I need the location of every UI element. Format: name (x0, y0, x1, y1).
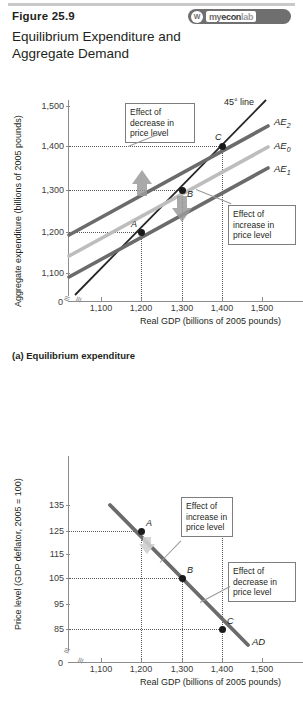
panel-a-point-B (179, 187, 186, 194)
ae1-sub: 1 (287, 169, 291, 176)
mel-my-text: my (209, 12, 221, 22)
mel-circle-icon: W (191, 11, 203, 23)
ae0-sub: 0 (287, 146, 291, 153)
mel-lab-text: lab (241, 12, 253, 22)
figure-title-line2: Aggregate Demand (12, 46, 129, 61)
panel-b-point-B-label: B (187, 565, 193, 575)
panel-b-callout-decrease: Effect of decrease in price level (228, 562, 296, 602)
panel-a-callout-increase: Effect of increase in price level (228, 205, 296, 245)
panel-a-point-C-label: C (215, 132, 222, 142)
panel-a-callout-decrease: Effect of decrease in price level (125, 103, 195, 143)
chart-panel-a: Aggregate expenditure (billions of 2005 … (0, 88, 303, 343)
panel-b-point-C (219, 626, 226, 633)
header-rule (8, 3, 295, 6)
panel-b-point-A (138, 528, 145, 535)
panel-a-ae1-label: AE1 (274, 163, 291, 176)
myeconlab-logo[interactable]: W myeconlab (188, 9, 291, 24)
panel-a-point-A (138, 229, 145, 236)
panel-b-callout-increase: Effect of increase in price level (181, 497, 233, 537)
panel-a-point-B-label: B (187, 189, 193, 199)
panel-a-45-degree-label: 45° line (224, 97, 254, 107)
mel-econ-text: econ (221, 12, 241, 22)
panel-a-caption: (a) Equilibrium expenditure (12, 350, 135, 361)
ae2-text: AE (274, 116, 287, 127)
figure-title: Equilibrium Expenditure and Aggregate De… (12, 28, 212, 62)
figure-number: Figure 25.9 (12, 10, 75, 22)
panel-b-point-A-label: A (146, 518, 152, 528)
figure-title-line1: Equilibrium Expenditure and (12, 29, 181, 44)
ae1-text: AE (274, 163, 287, 174)
panel-a-point-A-label: A (131, 219, 137, 229)
panel-a-ae2-label: AE2 (274, 116, 291, 129)
panel-a-ae0-label: AE0 (274, 140, 291, 153)
mel-wordmark: myeconlab (206, 11, 256, 22)
panel-b-ad-label: AD (252, 636, 265, 647)
chart-panel-b: Price level (GDP deflator, 2005 = 100) ≡… (0, 440, 303, 705)
panel-a-point-C (219, 143, 226, 150)
figure-container: Figure 25.9 Equilibrium Expenditure and … (0, 0, 303, 710)
ae0-text: AE (274, 140, 287, 151)
panel-b-point-C-label: C (227, 616, 234, 626)
panel-b-point-B (179, 575, 186, 582)
ae2-sub: 2 (287, 122, 291, 129)
